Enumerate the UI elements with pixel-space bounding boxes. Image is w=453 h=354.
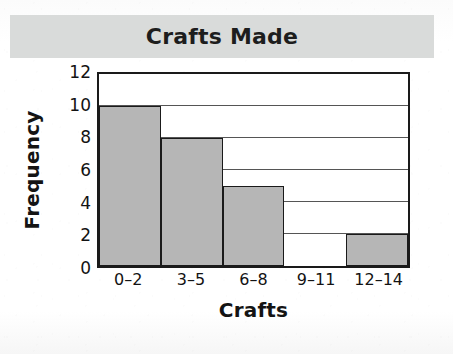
x-tick-label: 3–5 <box>160 270 223 296</box>
y-tick-label: 4 <box>58 194 91 211</box>
bar <box>346 234 408 266</box>
chart-page: Crafts Made Frequency 024681012 0–23–56–… <box>0 0 453 354</box>
plot-area <box>97 72 410 268</box>
chart-title: Crafts Made <box>146 24 298 49</box>
bar-slot <box>161 74 223 266</box>
y-tick-label: 12 <box>58 64 91 81</box>
bar-slot <box>223 74 285 266</box>
x-tick-label: 9–11 <box>285 270 348 296</box>
y-tick-label: 0 <box>58 260 91 277</box>
x-axis-tick-labels: 0–23–56–89–1112–14 <box>97 270 410 296</box>
chart-title-banner: Crafts Made <box>10 15 434 58</box>
histogram-chart: Frequency 024681012 0–23–56–89–1112–14 C… <box>0 58 453 354</box>
bar <box>223 186 285 266</box>
x-axis-title: Crafts <box>97 298 410 322</box>
bar <box>161 138 223 266</box>
x-tick-label: 12–14 <box>347 270 410 296</box>
bar-slot <box>99 74 161 266</box>
y-tick-label: 10 <box>58 96 91 113</box>
bar-slot <box>346 74 408 266</box>
y-tick-label: 8 <box>58 129 91 146</box>
bar-slot <box>284 74 346 266</box>
y-axis-title: Frequency <box>20 95 44 245</box>
x-tick-label: 0–2 <box>97 270 160 296</box>
y-tick-label: 2 <box>58 227 91 244</box>
bar <box>99 106 161 266</box>
x-tick-label: 6–8 <box>222 270 285 296</box>
y-tick-label: 6 <box>58 162 91 179</box>
bar-series <box>99 74 408 266</box>
y-axis-tick-labels: 024681012 <box>58 72 91 268</box>
